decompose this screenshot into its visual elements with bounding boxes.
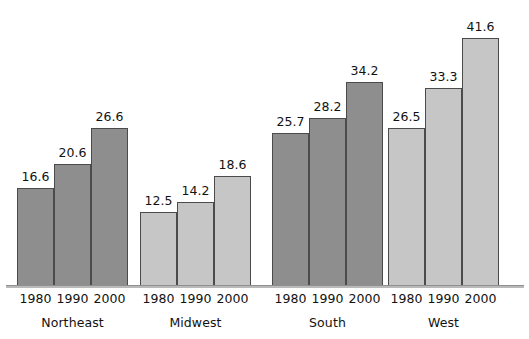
bar-northeast-1990[interactable]: 20.6 (54, 2, 91, 287)
tick-label-midwest-1980: 1980 (140, 291, 177, 306)
bar-rect[interactable] (177, 202, 214, 287)
bar-midwest-2000[interactable]: 18.6 (214, 2, 251, 287)
tick-label-west-2000: 2000 (462, 291, 499, 306)
x-axis-group-labels: NortheastMidwestSouthWest (0, 315, 529, 335)
bar-chart: 16.620.626.612.514.218.625.728.234.226.5… (0, 0, 529, 339)
group-label-midwest: Midwest (140, 315, 251, 330)
x-axis-baseline (6, 285, 524, 288)
bar-group-west: 26.533.341.6 (388, 0, 499, 287)
bar-rect[interactable] (346, 82, 383, 287)
tick-label-south-1990: 1990 (309, 291, 346, 306)
bar-group-south: 25.728.234.2 (272, 0, 383, 287)
bar-west-1980[interactable]: 26.5 (388, 2, 425, 287)
bar-west-2000[interactable]: 41.6 (462, 2, 499, 287)
bar-value-label: 25.7 (276, 114, 304, 129)
bar-value-label: 18.6 (218, 157, 246, 172)
tick-label-northeast-2000: 2000 (91, 291, 128, 306)
bar-value-label: 12.5 (144, 193, 172, 208)
tick-label-midwest-2000: 2000 (214, 291, 251, 306)
bar-rect[interactable] (54, 164, 91, 287)
bar-value-label: 26.6 (95, 109, 123, 124)
bar-rect[interactable] (140, 212, 177, 287)
bar-rect[interactable] (462, 38, 499, 287)
bar-value-label: 14.2 (181, 183, 209, 198)
group-label-south: South (272, 315, 383, 330)
bar-northeast-2000[interactable]: 26.6 (91, 2, 128, 287)
group-label-west: West (388, 315, 499, 330)
tick-label-midwest-1990: 1990 (177, 291, 214, 306)
bar-rect[interactable] (214, 176, 251, 287)
bar-west-1990[interactable]: 33.3 (425, 2, 462, 287)
bar-midwest-1980[interactable]: 12.5 (140, 2, 177, 287)
plot-area: 16.620.626.612.514.218.625.728.234.226.5… (0, 0, 529, 287)
bar-northeast-1980[interactable]: 16.6 (17, 2, 54, 287)
tick-label-south-1980: 1980 (272, 291, 309, 306)
bar-rect[interactable] (91, 128, 128, 287)
bar-rect[interactable] (388, 128, 425, 287)
tick-label-northeast-1980: 1980 (17, 291, 54, 306)
bar-value-label: 20.6 (58, 145, 86, 160)
bar-group-northeast: 16.620.626.6 (17, 0, 128, 287)
bar-group-midwest: 12.514.218.6 (140, 0, 251, 287)
bar-value-label: 26.5 (392, 109, 420, 124)
bar-rect[interactable] (272, 133, 309, 287)
bar-value-label: 33.3 (429, 69, 457, 84)
tick-label-west-1980: 1980 (388, 291, 425, 306)
tick-label-west-1990: 1990 (425, 291, 462, 306)
x-axis-tick-labels: 1980199020001980199020001980199020001980… (0, 291, 529, 311)
bar-midwest-1990[interactable]: 14.2 (177, 2, 214, 287)
bar-rect[interactable] (425, 88, 462, 287)
tick-label-south-2000: 2000 (346, 291, 383, 306)
group-label-northeast: Northeast (17, 315, 128, 330)
bar-value-label: 41.6 (466, 19, 494, 34)
bar-south-2000[interactable]: 34.2 (346, 2, 383, 287)
bar-rect[interactable] (309, 118, 346, 287)
bar-rect[interactable] (17, 188, 54, 287)
bar-south-1980[interactable]: 25.7 (272, 2, 309, 287)
bar-value-label: 16.6 (21, 169, 49, 184)
tick-label-northeast-1990: 1990 (54, 291, 91, 306)
bar-value-label: 34.2 (350, 63, 378, 78)
bar-value-label: 28.2 (313, 99, 341, 114)
bar-south-1990[interactable]: 28.2 (309, 2, 346, 287)
